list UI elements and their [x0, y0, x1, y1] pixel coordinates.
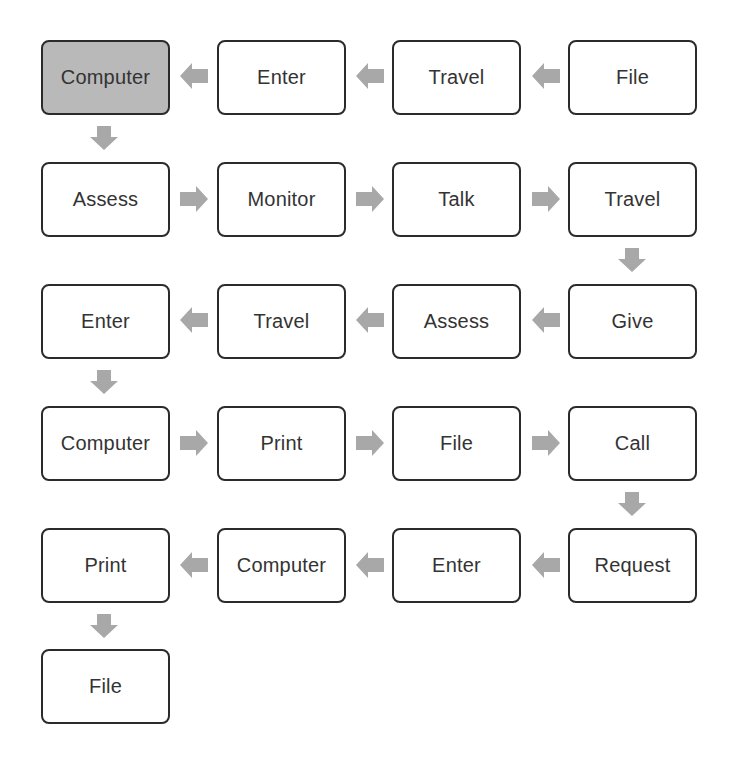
step-label: Travel [253, 310, 309, 333]
step-enter: Enter [41, 284, 170, 359]
step-file-end: File [41, 649, 170, 724]
step-print: Print [217, 406, 346, 481]
arrow-left-icon [532, 63, 560, 89]
arrow-left-icon [180, 552, 208, 578]
step-label: Print [260, 432, 302, 455]
step-talk: Talk [392, 162, 521, 237]
step-file: File [392, 406, 521, 481]
arrow-left-icon [180, 63, 208, 89]
step-enter: Enter [392, 528, 521, 603]
arrow-right-icon [532, 430, 560, 456]
arrow-right-icon [532, 186, 560, 212]
step-computer: Computer [41, 406, 170, 481]
arrow-left-icon [180, 307, 208, 333]
step-label: Enter [432, 554, 481, 577]
arrow-down-icon [618, 248, 646, 272]
step-label: Assess [424, 310, 490, 333]
step-label: File [616, 66, 649, 89]
step-label: Talk [438, 188, 474, 211]
step-label: Enter [257, 66, 306, 89]
step-computer: Computer [217, 528, 346, 603]
step-label: Monitor [247, 188, 315, 211]
step-travel: Travel [392, 40, 521, 115]
step-call: Call [568, 406, 697, 481]
step-label: Computer [237, 554, 326, 577]
step-label: Computer [61, 432, 150, 455]
step-label: Enter [81, 310, 130, 333]
arrow-left-icon [356, 307, 384, 333]
step-label: Travel [428, 66, 484, 89]
step-assess: Assess [392, 284, 521, 359]
step-file-start: File [568, 40, 697, 115]
step-label: Call [615, 432, 650, 455]
arrow-down-icon [90, 126, 118, 150]
step-label: Travel [604, 188, 660, 211]
arrow-right-icon [356, 430, 384, 456]
step-request: Request [568, 528, 697, 603]
arrow-right-icon [180, 430, 208, 456]
arrow-down-icon [90, 370, 118, 394]
step-label: Request [595, 554, 671, 577]
step-label: Print [84, 554, 126, 577]
arrow-right-icon [180, 186, 208, 212]
arrow-left-icon [532, 552, 560, 578]
step-give: Give [568, 284, 697, 359]
step-travel: Travel [568, 162, 697, 237]
step-computer-highlighted: Computer [41, 40, 170, 115]
step-label: Assess [73, 188, 139, 211]
step-label: File [89, 675, 122, 698]
step-label: Give [612, 310, 654, 333]
arrow-left-icon [532, 307, 560, 333]
arrow-down-icon [90, 614, 118, 638]
step-label: File [440, 432, 473, 455]
step-print: Print [41, 528, 170, 603]
step-enter: Enter [217, 40, 346, 115]
arrow-left-icon [356, 63, 384, 89]
step-assess: Assess [41, 162, 170, 237]
arrow-down-icon [618, 492, 646, 516]
step-label: Computer [61, 66, 150, 89]
step-monitor: Monitor [217, 162, 346, 237]
arrow-right-icon [356, 186, 384, 212]
arrow-left-icon [356, 552, 384, 578]
step-travel: Travel [217, 284, 346, 359]
